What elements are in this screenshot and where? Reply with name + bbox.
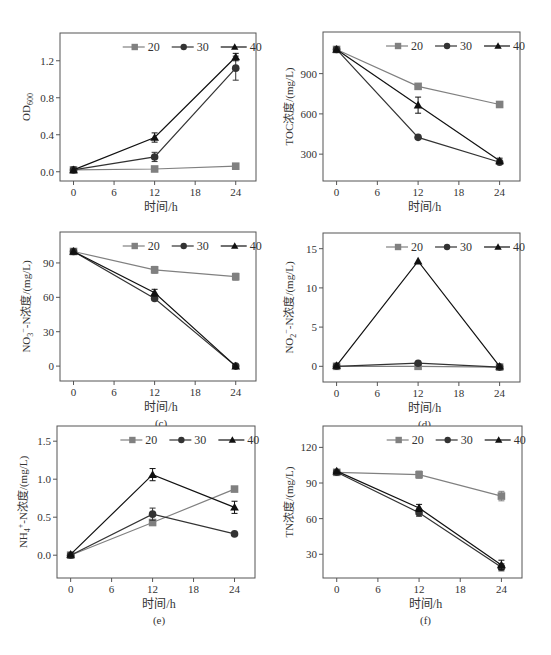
legend-label: 40 bbox=[250, 239, 262, 253]
line-chart-a: 06121824时间/h(a)0.00.40.81.2OD600203040 bbox=[0, 0, 275, 218]
chart-panel-e: 06121824时间/h(e)0.00.51.01.5NH4+-N浓度/(mg/… bbox=[0, 418, 275, 655]
series-40 bbox=[69, 247, 240, 369]
circle-marker-icon bbox=[181, 243, 187, 249]
legend-item-20: 20 bbox=[120, 433, 157, 447]
line-chart-e: 06121824时间/h(e)0.00.51.01.5NH4+-N浓度/(mg/… bbox=[0, 418, 275, 655]
legend-label: 20 bbox=[148, 40, 160, 54]
y-axis: 306090120 bbox=[301, 441, 324, 560]
y-tick-label: 90 bbox=[43, 257, 55, 269]
legend-item-30: 30 bbox=[435, 240, 472, 254]
x-tick-label: 24 bbox=[494, 387, 506, 399]
y-tick-label: 900 bbox=[301, 68, 318, 80]
circle-marker-icon bbox=[444, 244, 450, 250]
series-40 bbox=[332, 257, 504, 370]
y-tick-label: 0.8 bbox=[40, 92, 54, 104]
x-tick-label: 6 bbox=[375, 583, 381, 595]
series-40 bbox=[332, 467, 505, 570]
circle-marker-icon bbox=[232, 64, 240, 72]
square-marker-icon bbox=[151, 266, 159, 274]
x-tick-label: 12 bbox=[413, 186, 424, 198]
panel-caption: (f) bbox=[420, 614, 431, 627]
line-chart-f: 06121824时间/h(f)306090120TN浓度/(mg/L)20304… bbox=[275, 418, 551, 655]
x-axis: 06121824 bbox=[334, 382, 506, 399]
legend-item-20: 20 bbox=[387, 433, 424, 447]
x-tick-label: 12 bbox=[414, 583, 425, 595]
series-20 bbox=[333, 469, 505, 501]
square-marker-icon bbox=[498, 492, 506, 500]
x-tick-label: 12 bbox=[413, 387, 424, 399]
legend-item-40: 40 bbox=[218, 433, 259, 447]
x-tick-label: 18 bbox=[453, 186, 465, 198]
triangle-marker-icon bbox=[415, 504, 424, 512]
legend-item-20: 20 bbox=[386, 240, 423, 254]
legend-item-40: 40 bbox=[485, 433, 526, 447]
x-axis: 06121824 bbox=[68, 578, 241, 595]
circle-marker-icon bbox=[414, 359, 422, 367]
chart-panel-d: 06121824时间/h(d)051015NO2−-N浓度/(mg/L)2030… bbox=[275, 218, 551, 426]
chart-panel-c: 06121824时间/h(c)0306090NO3−-N浓度/(mg/L)203… bbox=[0, 218, 275, 426]
y-tick-label: 0.0 bbox=[40, 166, 54, 178]
legend: 203040 bbox=[120, 433, 259, 447]
x-axis-label: 时间/h bbox=[408, 401, 441, 415]
legend-item-30: 30 bbox=[172, 239, 209, 253]
square-marker-icon bbox=[395, 244, 401, 250]
square-marker-icon bbox=[496, 101, 504, 109]
x-axis-label: 时间/h bbox=[409, 597, 442, 611]
x-tick-label: 24 bbox=[496, 583, 508, 595]
triangle-marker-icon bbox=[230, 503, 239, 511]
x-axis: 06121824 bbox=[334, 578, 507, 595]
circle-marker-icon bbox=[181, 44, 187, 50]
legend-item-30: 30 bbox=[169, 433, 206, 447]
legend-label: 30 bbox=[460, 240, 472, 254]
y-tick-label: 1.5 bbox=[37, 435, 51, 447]
legend-label: 20 bbox=[148, 239, 160, 253]
square-marker-icon bbox=[132, 44, 138, 50]
x-tick-label: 18 bbox=[190, 386, 202, 398]
y-tick-label: 0 bbox=[49, 360, 55, 372]
circle-marker-icon bbox=[444, 43, 450, 49]
legend-label: 40 bbox=[247, 433, 259, 447]
triangle-marker-icon bbox=[150, 288, 159, 296]
legend-label: 40 bbox=[513, 240, 525, 254]
y-axis-label: TOC浓度/(mg/L) bbox=[282, 67, 296, 145]
legend: 203040 bbox=[387, 433, 526, 447]
plot-frame bbox=[60, 33, 256, 181]
triangle-marker-icon bbox=[148, 470, 157, 478]
legend-label: 20 bbox=[412, 433, 424, 447]
legend-label: 40 bbox=[250, 40, 262, 54]
y-tick-label: 300 bbox=[301, 148, 318, 160]
square-marker-icon bbox=[415, 471, 423, 479]
y-tick-label: 30 bbox=[306, 548, 318, 560]
y-axis-label: NO2−-N浓度/(mg/L) bbox=[282, 261, 298, 354]
x-axis-label: 时间/h bbox=[144, 400, 177, 414]
x-tick-label: 24 bbox=[230, 186, 242, 198]
legend-label: 30 bbox=[461, 433, 473, 447]
line-chart-d: 06121824时间/h(d)051015NO2−-N浓度/(mg/L)2030… bbox=[275, 218, 551, 426]
x-tick-label: 6 bbox=[375, 186, 381, 198]
plot-frame bbox=[57, 426, 255, 578]
y-tick-label: 120 bbox=[301, 441, 318, 453]
x-tick-label: 12 bbox=[149, 186, 160, 198]
x-tick-label: 6 bbox=[111, 386, 117, 398]
square-marker-icon bbox=[232, 273, 240, 281]
square-marker-icon bbox=[232, 162, 240, 170]
x-tick-label: 0 bbox=[334, 387, 340, 399]
series-20 bbox=[70, 162, 240, 173]
series-line bbox=[337, 472, 502, 567]
legend-label: 20 bbox=[411, 39, 423, 53]
x-tick-label: 0 bbox=[71, 186, 77, 198]
legend-item-30: 30 bbox=[172, 40, 209, 54]
x-tick-label: 12 bbox=[149, 386, 160, 398]
legend-item-40: 40 bbox=[221, 239, 262, 253]
plot-frame bbox=[323, 233, 520, 382]
legend-item-20: 20 bbox=[123, 239, 160, 253]
y-tick-label: 10 bbox=[306, 282, 318, 294]
y-axis-label: NH4+-N浓度/(mg/L) bbox=[16, 456, 32, 549]
legend-item-40: 40 bbox=[484, 240, 525, 254]
plot-frame bbox=[323, 32, 520, 181]
legend-label: 30 bbox=[194, 433, 206, 447]
circle-marker-icon bbox=[444, 437, 450, 443]
square-marker-icon bbox=[132, 243, 138, 249]
x-axis-label: 时间/h bbox=[144, 200, 177, 214]
x-tick-label: 18 bbox=[188, 583, 200, 595]
